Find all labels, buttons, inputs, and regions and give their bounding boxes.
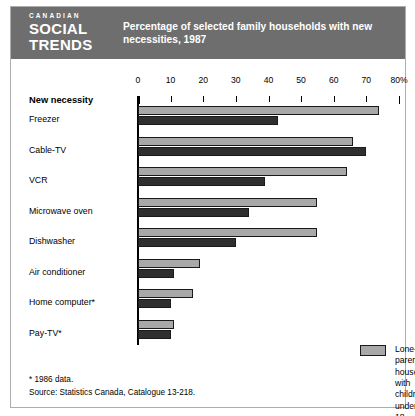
plot-area: 01020304050607080% Lone-parent household… [128, 59, 405, 409]
publication-logo: CANADIAN SOCIAL TRENDS [11, 13, 123, 54]
bar-lone-parent [138, 228, 317, 237]
x-tick-label-20: 20 [198, 75, 208, 85]
x-tick-mark-10 [171, 96, 172, 102]
chart-body: New necessity FreezerCable-TVVCRMicrowav… [11, 59, 405, 409]
x-tick-label-10: 10 [166, 75, 176, 85]
bar-lone-parent [138, 137, 353, 146]
x-tick-label-70: 70 [362, 75, 372, 85]
bar-lone-parent [138, 259, 200, 268]
x-tick-label-50: 50 [296, 75, 306, 85]
bar-other-family [138, 208, 249, 217]
x-tick-label-60: 60 [329, 75, 339, 85]
bar-other-family [138, 330, 171, 339]
legend-item-lone-parent: Lone-parent households with children und… [360, 344, 415, 416]
brand-top-text: CANADIAN [29, 13, 123, 20]
bar-lone-parent [138, 167, 347, 176]
bar-other-family [138, 238, 236, 247]
footnote-asterisk: * 1986 data. [29, 375, 195, 384]
bar-other-family [138, 116, 278, 125]
chart-footnotes: * 1986 data. Source: Statistics Canada, … [29, 375, 195, 397]
x-tick-label-0: 0 [136, 75, 141, 85]
x-tick-label-30: 30 [231, 75, 241, 85]
x-tick-mark-50 [301, 96, 302, 102]
x-tick-mark-40 [269, 96, 270, 102]
brand-line1-text: SOCIAL [29, 21, 123, 37]
bar-lone-parent [138, 320, 174, 329]
category-label: VCR [29, 175, 48, 185]
bar-other-family [138, 147, 366, 156]
category-label: Dishwasher [29, 236, 75, 246]
bar-lone-parent [138, 289, 193, 298]
legend-swatch-lone-parent [360, 345, 386, 356]
bar-other-family [138, 299, 171, 308]
category-label: Home computer* [29, 297, 95, 307]
bar-lone-parent [138, 198, 317, 207]
category-column-header: New necessity [29, 95, 93, 105]
chart-legend: Lone-parent households with children und… [360, 344, 415, 416]
x-tick-mark-60 [334, 96, 335, 102]
x-tick-mark-20 [203, 96, 204, 102]
brand-line2-text: TRENDS [29, 37, 123, 53]
category-label: Cable-TV [29, 145, 66, 155]
x-tick-label-40: 40 [264, 75, 274, 85]
chart-header: CANADIAN SOCIAL TRENDS Percentage of sel… [11, 7, 405, 59]
bar-lone-parent [138, 106, 379, 115]
category-label: Microwave oven [29, 206, 93, 216]
footnote-source: Source: Statistics Canada, Catalogue 13-… [29, 388, 195, 397]
x-tick-mark-70 [366, 96, 367, 102]
bar-other-family [138, 269, 174, 278]
category-label: Freezer [29, 114, 59, 124]
category-label: Pay-TV* [29, 328, 62, 338]
legend-label-lone-parent: Lone-parent households with children und… [395, 344, 415, 416]
chart-title: Percentage of selected family households… [123, 20, 405, 47]
chart-figure: CANADIAN SOCIAL TRENDS Percentage of sel… [10, 6, 406, 408]
category-label: Air conditioner [29, 267, 85, 277]
x-axis-tick-labels: 01020304050607080% [128, 59, 405, 81]
x-tick-label-80: 80% [390, 75, 407, 85]
x-tick-mark-30 [236, 96, 237, 102]
x-tick-mark-80 [399, 96, 400, 104]
bar-other-family [138, 177, 265, 186]
